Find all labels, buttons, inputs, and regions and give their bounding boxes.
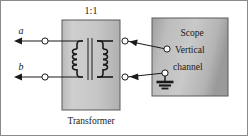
transformer-ratio-label: 1:1 [85,5,98,16]
transformer-caption: Transformer [67,116,115,126]
scope-input-label-line2: channel [173,62,203,72]
node-secondary-bottom [122,74,128,80]
arrowhead-secondary-top-icon [130,40,138,47]
node-scope-vertical-input [164,46,170,52]
transformer-block [62,20,120,110]
label-terminal-a: a [19,25,24,36]
scope-title-label: Scope [180,28,203,38]
node-scope-ground-input [162,70,168,76]
circuit-diagram-svg: 1:1 a b [0,0,248,136]
arrowhead-secondary-bottom-icon [130,74,139,81]
arrowhead-a-icon [14,38,22,45]
circuit-figure: 1:1 a b [0,0,248,136]
arrowhead-b-icon [14,74,22,81]
node-terminal-b [42,74,48,80]
scope-input-label-line1: Vertical [175,45,205,55]
node-secondary-top [122,38,128,44]
label-terminal-b: b [19,61,24,72]
transformer-body [62,20,120,110]
node-terminal-a [42,38,48,44]
